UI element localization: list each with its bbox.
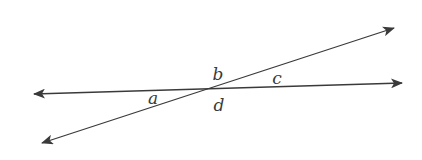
angle-label-c: c [272, 68, 282, 88]
angle-label-d: d [214, 95, 225, 115]
diagram-svg: a b c d [0, 0, 422, 160]
intersecting-lines-diagram: a b c d [0, 0, 422, 160]
slanted-line [42, 28, 394, 143]
angle-label-b: b [213, 64, 224, 84]
horizontal-line [34, 83, 402, 94]
angle-label-a: a [148, 88, 158, 108]
